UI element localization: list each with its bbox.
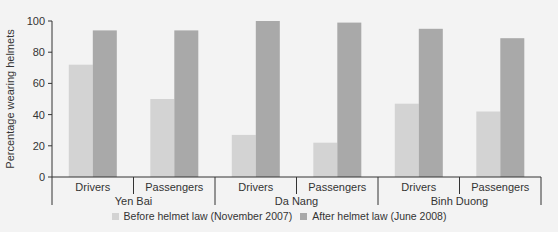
x-tick-label: Passengers (308, 181, 367, 193)
y-tick-label: 100 (27, 15, 45, 27)
y-axis-label: Percentage wearing helmets (4, 29, 16, 169)
legend-label-before: Before helmet law (November 2007) (124, 210, 293, 222)
x-tick-label: Passengers (145, 181, 204, 193)
bar-chart: 020406080100DriversPassengersYen BaiDriv… (0, 0, 558, 232)
bar-before (313, 143, 337, 177)
bar-before (232, 135, 256, 177)
bars-layer (69, 21, 525, 177)
legend-item-after: After helmet law (June 2008) (300, 210, 446, 222)
y-tick-label: 20 (33, 140, 45, 152)
bar-before (476, 112, 500, 178)
legend-item-before: Before helmet law (November 2007) (112, 210, 293, 222)
group-label: Da Nang (275, 195, 318, 207)
group-label: Binh Duong (431, 195, 489, 207)
legend: Before helmet law (November 2007) After … (0, 210, 558, 222)
y-tick-label: 40 (33, 109, 45, 121)
x-tick-label: Drivers (75, 181, 110, 193)
legend-label-after: After helmet law (June 2008) (312, 210, 446, 222)
y-tick-label: 80 (33, 46, 45, 58)
legend-swatch-before (112, 213, 119, 220)
group-label: Yen Bai (115, 195, 153, 207)
bar-before (150, 99, 174, 177)
bar-before (69, 65, 93, 177)
x-tick-label: Drivers (238, 181, 273, 193)
bar-after (93, 30, 117, 177)
x-tick-label: Drivers (401, 181, 436, 193)
bar-after (337, 23, 361, 177)
x-tick-label: Passengers (471, 181, 530, 193)
bar-after (500, 38, 524, 177)
y-tick-label: 60 (33, 77, 45, 89)
bar-after (256, 21, 280, 177)
legend-swatch-after (300, 213, 307, 220)
bar-after (419, 29, 443, 177)
y-tick-label: 0 (39, 171, 45, 183)
bar-before (395, 104, 419, 177)
bar-after (174, 30, 198, 177)
